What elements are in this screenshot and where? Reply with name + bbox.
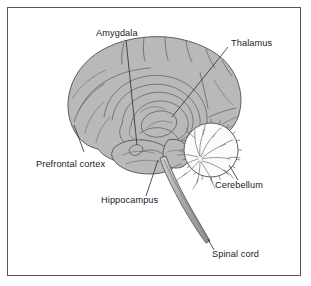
brain-diagram: Amygdala Thalamus Prefrontal cortex Hipp… (0, 0, 311, 286)
label-cerebellum: Cerebellum (215, 180, 263, 190)
label-prefrontal-cortex: Prefrontal cortex (36, 159, 105, 169)
label-amygdala: Amygdala (96, 28, 138, 38)
figure-page: Amygdala Thalamus Prefrontal cortex Hipp… (0, 0, 311, 286)
label-spinal-cord: Spinal cord (212, 249, 259, 259)
label-thalamus: Thalamus (231, 38, 272, 48)
label-hippocampus: Hippocampus (101, 195, 159, 205)
